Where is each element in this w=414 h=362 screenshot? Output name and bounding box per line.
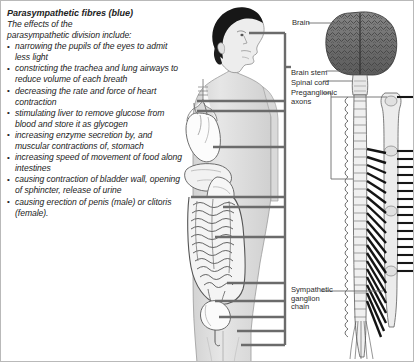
- callout-label-brain: Brain: [292, 19, 310, 28]
- intro-line: The effects of the: [7, 19, 183, 30]
- list-item: decreasing the rate and force of heart c…: [7, 86, 183, 108]
- list-item: constricting the trachea and lung airway…: [7, 63, 183, 85]
- anatomy-figure-page: Parasympathetic fibres (blue) The effect…: [0, 0, 414, 362]
- list-item: stimulating liver to remove glucose from…: [7, 108, 183, 130]
- callout-label-brain-stem: Brain stem: [291, 69, 327, 78]
- list-item: causing contraction of bladder wall, ope…: [7, 174, 183, 196]
- list-item: causing erection of penis (male) or clit…: [7, 197, 183, 219]
- list-item: increasing enzyme secretion by, and musc…: [7, 130, 183, 152]
- callout-label-spinal-cord: Spinal cord: [291, 79, 329, 88]
- panel-heading: Parasympathetic fibres (blue): [7, 7, 183, 19]
- brain-icon: [326, 12, 397, 95]
- description-panel: Parasympathetic fibres (blue) The effect…: [7, 7, 183, 219]
- effects-list: narrowing the pupils of the eyes to admi…: [7, 41, 183, 219]
- preganglionic-axons-icon: [367, 149, 386, 337]
- list-item: increasing speed of movement of food alo…: [7, 152, 183, 174]
- callout-label-preganglionic-axons: Preganglionic axons: [291, 89, 337, 106]
- list-item: narrowing the pupils of the eyes to admi…: [7, 41, 183, 63]
- spinal-cord-icon: [345, 95, 373, 359]
- callout-label-sympathetic-ganglion-chain: Sympathetic ganglion chain: [291, 286, 333, 312]
- panel-intro: The effects of the parasympathetic divis…: [7, 19, 183, 41]
- intro-line: parasympathetic division include:: [7, 30, 183, 41]
